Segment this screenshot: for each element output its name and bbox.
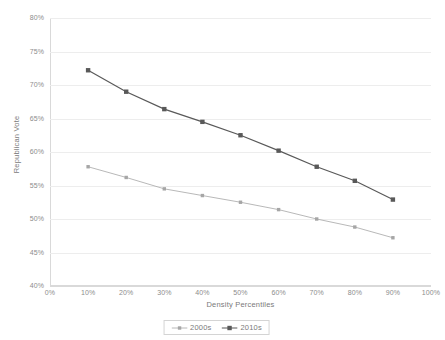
x-axis-title: Density Percentiles <box>50 300 431 309</box>
x-axis-tick-label: 100% <box>411 289 445 297</box>
x-axis-tick-label: 90% <box>373 289 413 297</box>
data-point-marker <box>124 90 128 94</box>
y-axis-tick-label: 50% <box>8 215 44 222</box>
x-axis-tick-label: 40% <box>182 289 222 297</box>
x-axis-tick-label: 20% <box>106 289 146 297</box>
data-point-marker <box>391 197 395 201</box>
series-2010s <box>86 68 395 202</box>
y-axis-tick-label: 40% <box>8 282 44 289</box>
chart-legend: 2000s2010s <box>163 320 270 335</box>
legend-label: 2010s <box>241 323 262 332</box>
data-point-marker <box>353 225 356 228</box>
data-point-marker <box>277 208 280 211</box>
data-point-marker <box>315 217 318 220</box>
legend-marker-icon <box>171 324 187 332</box>
x-axis-tick-label: 80% <box>335 289 375 297</box>
x-axis-tick-label: 0% <box>30 289 70 297</box>
data-point-marker <box>86 68 90 72</box>
data-point-marker <box>201 194 204 197</box>
data-point-marker <box>163 187 166 190</box>
y-axis-tick-label: 45% <box>8 249 44 256</box>
data-point-marker <box>315 165 319 169</box>
data-point-marker <box>238 133 242 137</box>
data-point-marker <box>276 148 280 152</box>
y-axis-tick-label: 80% <box>8 14 44 21</box>
data-point-marker <box>162 107 166 111</box>
series-layer <box>50 18 431 286</box>
legend-item-2000s[interactable]: 2000s <box>171 323 211 332</box>
x-axis-tick-label: 30% <box>144 289 184 297</box>
x-axis-tick-label: 10% <box>68 289 108 297</box>
y-axis-tick-label: 75% <box>8 48 44 55</box>
data-point-marker <box>125 176 128 179</box>
data-point-marker <box>200 120 204 124</box>
data-point-marker <box>391 236 394 239</box>
x-axis-tick-label: 60% <box>259 289 299 297</box>
legend-item-2010s[interactable]: 2010s <box>222 323 262 332</box>
legend-marker-icon <box>222 324 238 332</box>
legend-label: 2000s <box>190 323 211 332</box>
x-axis-tick-label: 50% <box>221 289 261 297</box>
data-point-marker <box>353 179 357 183</box>
y-axis-title: Republican Vote <box>12 85 21 205</box>
x-axis-tick-label: 70% <box>297 289 337 297</box>
data-point-marker <box>239 201 242 204</box>
data-point-marker <box>86 165 89 168</box>
series-2000s <box>86 165 394 239</box>
